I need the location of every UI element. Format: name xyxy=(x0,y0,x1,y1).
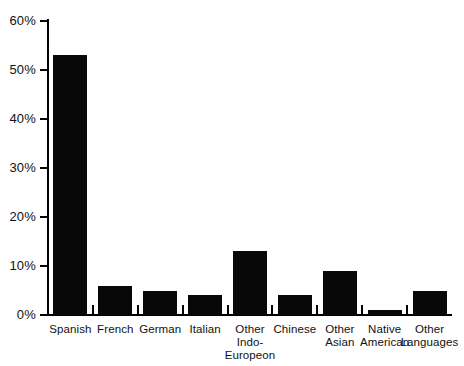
bar xyxy=(53,55,87,315)
x-axis-label-line: Other xyxy=(399,323,460,336)
bar xyxy=(278,295,312,315)
bar xyxy=(368,310,402,315)
bar-chart: 60%50%40%30%20%10%0% SpanishFrenchGerman… xyxy=(0,0,464,366)
bar xyxy=(233,251,267,315)
bars-layer xyxy=(0,16,464,315)
x-axis-label: OtherLanguages xyxy=(399,323,460,349)
x-axis-label-line: Languages xyxy=(399,336,460,349)
bar xyxy=(323,271,357,315)
bar xyxy=(188,295,222,315)
x-axis-label-line: Indo-Europeon xyxy=(220,336,281,362)
bar xyxy=(413,291,447,316)
bar xyxy=(143,291,177,316)
bar xyxy=(98,286,132,315)
